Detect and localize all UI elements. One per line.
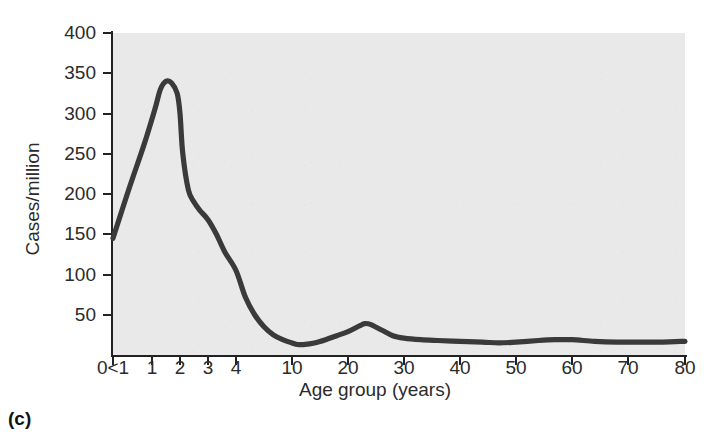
y-tick-label: 200: [50, 184, 96, 203]
figure-caption: (c): [8, 408, 31, 430]
y-axis-title: Cases/million: [22, 104, 44, 294]
plot-area: [113, 33, 685, 355]
x-tick-label: 0<1: [90, 358, 137, 377]
x-tick-label: 70: [610, 358, 646, 377]
y-tick-mark: [103, 153, 112, 155]
x-tick-label: 4: [224, 358, 249, 377]
y-tick-label: 300: [50, 104, 96, 123]
x-tick-label: 20: [330, 358, 366, 377]
x-tick-label: 1: [140, 358, 165, 377]
x-tick-label: 10: [274, 358, 310, 377]
y-tick-mark: [103, 72, 112, 74]
y-tick-label: 400: [50, 23, 96, 42]
y-tick-label: 50: [50, 305, 96, 324]
y-tick-mark: [103, 274, 112, 276]
y-tick-label: 250: [50, 144, 96, 163]
y-tick-mark: [103, 314, 112, 316]
y-tick-mark: [103, 113, 112, 115]
x-tick-label: 30: [386, 358, 422, 377]
x-tick-label: 80: [667, 358, 703, 377]
x-tick-label: 50: [498, 358, 534, 377]
x-tick-label: 3: [196, 358, 221, 377]
y-tick-mark: [103, 193, 112, 195]
y-tick-label: 100: [50, 265, 96, 284]
y-tick-label: 150: [50, 224, 96, 243]
y-tick-mark: [103, 233, 112, 235]
x-tick-label: 60: [554, 358, 590, 377]
figure-panel: 50100150200250300350400 0<11234102030405…: [0, 0, 723, 442]
x-axis-title: Age group (years): [205, 379, 545, 401]
x-tick-label: 40: [442, 358, 478, 377]
y-tick-mark: [103, 32, 112, 34]
x-tick-label: 2: [168, 358, 193, 377]
y-tick-label: 350: [50, 63, 96, 82]
